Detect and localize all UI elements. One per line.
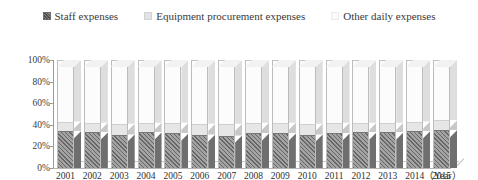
- bar-group[interactable]: [84, 60, 101, 168]
- bar-group[interactable]: [272, 60, 289, 168]
- bar-front-face: [433, 60, 450, 168]
- bar-side-segment: [343, 133, 350, 168]
- bar-side-segment: [316, 135, 323, 168]
- bar-group[interactable]: [164, 60, 181, 168]
- bar-group[interactable]: [111, 60, 128, 168]
- bar-front-face: [191, 60, 208, 168]
- bar-side-segment: [208, 124, 215, 135]
- bar-side-segment: [289, 60, 296, 123]
- segment-equipment-procurement-expenses: [353, 123, 368, 133]
- bar-group[interactable]: [352, 60, 369, 168]
- bar-group[interactable]: [299, 60, 316, 168]
- bar-front-face: [111, 60, 128, 168]
- bar-group[interactable]: [379, 60, 396, 168]
- bar-side-face: [450, 60, 457, 168]
- bar-side-face: [316, 60, 323, 168]
- legend-label-staff-expenses: Staff expenses: [55, 10, 119, 22]
- bar-side-segment: [423, 122, 430, 132]
- staff-swatch-icon: [43, 12, 51, 20]
- bar-group[interactable]: [326, 60, 343, 168]
- segment-staff-expenses: [139, 132, 154, 168]
- bar-side-face: [343, 60, 350, 168]
- bar-side-segment: [369, 60, 376, 123]
- segment-other-daily-expenses: [434, 60, 449, 120]
- segment-other-daily-expenses: [407, 60, 422, 122]
- segment-equipment-procurement-expenses: [85, 123, 100, 133]
- bar-side-face: [369, 60, 376, 168]
- segment-equipment-procurement-expenses: [165, 123, 180, 134]
- chart-legend: Staff expenses Equipment procurement exp…: [0, 6, 478, 26]
- bar-side-segment: [289, 133, 296, 168]
- x-axis-tick-labels: 2001200220032004200520062007200820092010…: [53, 171, 459, 180]
- bar-side-segment: [128, 135, 135, 168]
- bar-side-face: [423, 60, 430, 168]
- y-axis-tick-labels: 100%80%60%40%20%0%: [8, 60, 50, 168]
- x-axis-tick-label: 2011: [320, 171, 349, 180]
- bar-side-segment: [74, 122, 81, 132]
- bar-series-container: [53, 60, 459, 168]
- bar-side-segment: [289, 123, 296, 134]
- legend-item-equipment-procurement-expenses: Equipment procurement expenses: [144, 10, 305, 22]
- x-axis-tick-label: 2007: [212, 171, 241, 180]
- bar-side-segment: [423, 60, 430, 122]
- bar-group[interactable]: [191, 60, 208, 168]
- segment-equipment-procurement-expenses: [139, 123, 154, 133]
- bar-group[interactable]: [138, 60, 155, 168]
- bar-group[interactable]: [57, 60, 74, 168]
- bar-side-segment: [262, 133, 269, 168]
- segment-other-daily-expenses: [58, 60, 73, 122]
- bar-side-segment: [316, 124, 323, 135]
- stacked-column-chart: Staff expenses Equipment procurement exp…: [0, 0, 478, 180]
- bar-side-segment: [396, 132, 403, 168]
- y-axis-tick-label: 0%: [8, 164, 50, 173]
- segment-other-daily-expenses: [246, 60, 261, 123]
- bar-side-face: [235, 60, 242, 168]
- bar-side-segment: [396, 123, 403, 133]
- bar-side-segment: [369, 132, 376, 168]
- segment-other-daily-expenses: [327, 60, 342, 123]
- y-axis-tick-label: 100%: [8, 56, 50, 65]
- bar-front-face: [379, 60, 396, 168]
- bar-group[interactable]: [245, 60, 262, 168]
- segment-other-daily-expenses: [85, 60, 100, 123]
- bar-side-segment: [155, 132, 162, 168]
- bar-side-face: [262, 60, 269, 168]
- bar-side-segment: [423, 131, 430, 168]
- x-axis-tick-label: 2012: [346, 171, 375, 180]
- segment-equipment-procurement-expenses: [380, 123, 395, 133]
- segment-staff-expenses: [327, 133, 342, 168]
- segment-staff-expenses: [407, 131, 422, 168]
- bar-side-segment: [369, 123, 376, 133]
- bar-side-segment: [235, 124, 242, 136]
- bar-side-segment: [450, 60, 457, 120]
- segment-equipment-procurement-expenses: [407, 122, 422, 132]
- segment-staff-expenses: [165, 133, 180, 168]
- x-axis-tick-label: 2013: [373, 171, 402, 180]
- bar-side-segment: [343, 123, 350, 134]
- x-axis-tick-label: 2006: [185, 171, 214, 180]
- bar-group[interactable]: [218, 60, 235, 168]
- legend-item-other-daily-expenses: Other daily expenses: [331, 10, 435, 22]
- bar-side-segment: [101, 123, 108, 133]
- bar-side-segment: [128, 124, 135, 135]
- segment-staff-expenses: [353, 132, 368, 168]
- segment-staff-expenses: [85, 132, 100, 168]
- segment-equipment-procurement-expenses: [300, 124, 315, 135]
- bar-front-face: [352, 60, 369, 168]
- x-axis-title: （Year）: [424, 171, 462, 180]
- segment-other-daily-expenses: [353, 60, 368, 123]
- segment-other-daily-expenses: [300, 60, 315, 124]
- bar-side-segment: [450, 130, 457, 168]
- legend-item-staff-expenses: Staff expenses: [43, 10, 119, 22]
- other-swatch-icon: [331, 12, 339, 20]
- bar-group[interactable]: [433, 60, 450, 168]
- bar-group[interactable]: [406, 60, 423, 168]
- floor-front-edge: [53, 168, 451, 169]
- bar-front-face: [164, 60, 181, 168]
- segment-other-daily-expenses: [112, 60, 127, 124]
- bar-side-segment: [101, 60, 108, 123]
- segment-other-daily-expenses: [139, 60, 154, 123]
- bar-side-segment: [235, 136, 242, 168]
- bar-front-face: [218, 60, 235, 168]
- segment-staff-expenses: [192, 135, 207, 168]
